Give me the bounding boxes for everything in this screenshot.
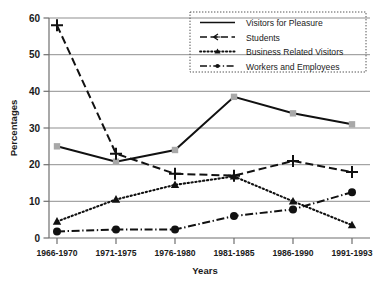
legend-label-1: Students (246, 33, 280, 43)
y-tick-label-0: 0 (34, 233, 40, 244)
marker-circle (112, 226, 120, 234)
y-tick-labels: 60 50 40 30 20 10 0 (29, 13, 41, 244)
legend-item-visitors-for-pleasure[interactable]: Visitors for Pleasure (200, 18, 323, 28)
marker-circle (230, 212, 238, 220)
marker-plus (346, 166, 358, 178)
marker-plus (169, 168, 181, 180)
y-ticks (44, 18, 50, 238)
y-tick-label-40: 40 (29, 86, 41, 97)
marker-plus (110, 148, 122, 160)
legend: Visitors for Pleasure Students Business … (190, 12, 366, 72)
legend-marker-circle-icon (215, 64, 219, 68)
marker-square (231, 94, 237, 100)
marker-triangle (289, 197, 297, 205)
y-tick-label-60: 60 (29, 13, 41, 24)
legend-label-2: Business Related Visitors (246, 47, 343, 57)
x-tick-label-2: 1976-1980 (154, 248, 195, 258)
y-tick-label-50: 50 (29, 49, 41, 60)
series-line (57, 192, 352, 231)
legend-item-workers-and-employees[interactable]: Workers and Employees (200, 62, 339, 72)
x-tick-label-4: 1986-1990 (272, 248, 313, 258)
y-axis-title: Percentages (8, 100, 19, 157)
marker-square (172, 147, 178, 153)
marker-circle (348, 188, 356, 196)
marker-circle (53, 227, 61, 235)
legend-label-3: Workers and Employees (246, 62, 339, 72)
legend-item-business-related-visitors[interactable]: Business Related Visitors (200, 47, 343, 57)
x-tick-label-1: 1971-1975 (95, 248, 136, 258)
marker-plus (51, 19, 63, 31)
marker-circle (171, 226, 179, 234)
marker-square (349, 121, 355, 127)
legend-item-students[interactable]: Students (200, 33, 280, 43)
marker-square (54, 143, 60, 149)
legend-label-0: Visitors for Pleasure (246, 18, 323, 28)
line-chart: 60 50 40 30 20 10 0 Percentages 1966-197… (0, 0, 391, 287)
x-tick-label-0: 1966-1970 (36, 248, 77, 258)
series-visitors-for-pleasure (54, 94, 355, 165)
x-axis-title: Years (192, 265, 217, 276)
x-tick-label-3: 1981-1985 (213, 248, 254, 258)
marker-circle (289, 205, 297, 213)
series-line (57, 176, 352, 225)
series-business-related-visitors (53, 172, 356, 228)
y-tick-label-30: 30 (29, 123, 41, 134)
series-line (57, 97, 352, 162)
x-tick-labels: 1966-1970 1971-1975 1976-1980 1981-1985 … (36, 248, 372, 258)
y-tick-label-10: 10 (29, 196, 41, 207)
x-tick-label-5: 1991-1993 (331, 248, 372, 258)
y-tick-label-20: 20 (29, 159, 41, 170)
legend-marker-plus-icon (214, 34, 221, 40)
gridlines (49, 18, 370, 201)
marker-square (290, 110, 296, 116)
series-workers-and-employees (53, 188, 356, 235)
x-ticks (57, 238, 352, 244)
chart-canvas: 60 50 40 30 20 10 0 Percentages 1966-197… (0, 0, 391, 287)
